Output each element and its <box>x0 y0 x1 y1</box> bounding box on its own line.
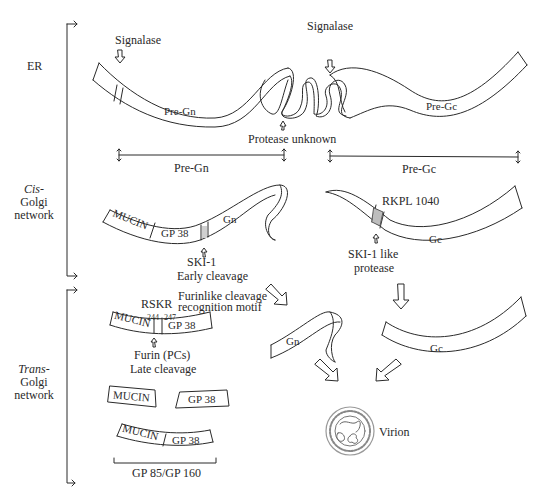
diagram-drawing <box>0 0 547 501</box>
label-cis-gc: Gc <box>429 233 442 246</box>
label-trans-golgi: Trans- Golgi network <box>14 363 54 402</box>
label-cis-hyphen: - <box>40 182 44 196</box>
timeline-axis <box>67 21 77 486</box>
label-pre-gn-ribbon: Pre-Gn <box>164 105 196 118</box>
label-ski1: SKI-1 <box>187 256 216 269</box>
label-cis-italic: Cis <box>24 182 40 196</box>
label-span-pre-gn: Pre-Gn <box>174 162 209 175</box>
label-ski1-protease: protease <box>354 262 394 275</box>
label-trans-italic: Trans <box>18 362 45 376</box>
label-pre-gc-ribbon: Pre-Gc <box>426 100 457 113</box>
ski1-like-arrow-icon <box>373 234 379 243</box>
label-trans-gp38: GP 38 <box>168 319 195 332</box>
trans-gn-ribbon <box>271 312 342 362</box>
label-signalase-left: Signalase <box>115 34 161 47</box>
label-gp85-gp160: GP 85/GP 160 <box>132 467 201 480</box>
label-cis-network: network <box>14 209 54 222</box>
label-gp38-joined: GP 38 <box>172 434 199 447</box>
folded-region <box>260 68 350 118</box>
label-virion: Virion <box>379 426 410 439</box>
label-cis-gp38: GP 38 <box>161 227 188 240</box>
furin-arrow-icon <box>151 338 157 347</box>
label-early-cleavage: Early cleavage <box>177 270 248 283</box>
label-furinlike-2: recognition motif <box>178 301 262 314</box>
cleavage-arrows-er <box>115 50 335 130</box>
label-rskr: RSKR <box>141 298 172 311</box>
label-ski1-like: SKI-1 like <box>348 248 398 261</box>
label-trans-hyphen: - <box>46 362 50 376</box>
label-furin-pcs: Furin (PCs) <box>134 349 190 362</box>
label-er: ER <box>27 60 42 73</box>
label-cis-golgi: Cis- Golgi network <box>14 183 54 222</box>
label-rkpl-1040: RKPL 1040 <box>382 195 439 208</box>
label-trans-gn: Gn <box>286 335 299 348</box>
label-trans-gc: Gc <box>430 342 443 355</box>
glycoprotein-processing-diagram: ER Cis- Golgi network Trans- Golgi netwo… <box>0 0 547 501</box>
label-signalase-right: Signalase <box>307 20 353 33</box>
label-late-cleavage: Late cleavage <box>130 363 196 376</box>
trans-gc-ribbon <box>382 297 526 352</box>
label-trans-network: network <box>14 389 54 402</box>
label-cis-gn: Gn <box>223 213 236 226</box>
cis-gn-shade <box>202 226 207 238</box>
label-span-pre-gc: Pre-Gc <box>402 163 436 176</box>
label-gp38-separated: GP 38 <box>188 393 215 406</box>
label-protease-unknown: Protease unknown <box>248 133 336 146</box>
virion-icon <box>326 407 374 455</box>
